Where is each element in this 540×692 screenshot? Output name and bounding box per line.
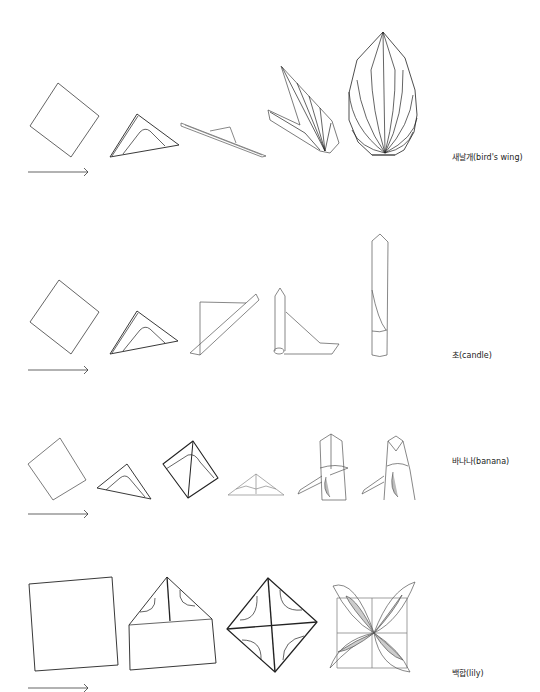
row-birds-wing: [28, 32, 417, 176]
step-banana-final: [362, 436, 415, 500]
label-birds-wing: 새날개(bird's wing): [452, 151, 523, 162]
label-lily: 백합(lily): [452, 667, 484, 678]
step-birds-wing-final: [349, 32, 417, 155]
step-rolled-band: [190, 294, 259, 355]
label-candle: 초(candle): [452, 349, 492, 360]
label-banana: 바나나(banana): [452, 455, 509, 466]
sequence-arrow-4: [28, 684, 88, 692]
step-kite: [163, 441, 218, 498]
step-lily-final: [330, 582, 415, 672]
step-triangle: [97, 464, 151, 499]
step-triangle: [110, 311, 178, 354]
step-folded-square: [129, 577, 216, 670]
step-square: [29, 577, 118, 671]
row-banana: [28, 434, 415, 518]
napkin-folding-diagram: [0, 0, 540, 692]
step-candle-final: [372, 234, 388, 357]
sequence-arrow-1: [28, 168, 88, 176]
step-square: [28, 438, 86, 500]
step-flat-fold: [181, 123, 266, 157]
step-flat-triangle: [228, 474, 284, 495]
step-square: [30, 83, 99, 157]
row-lily: [28, 577, 415, 692]
step-folded-cone: [298, 434, 348, 500]
sequence-arrow-2: [28, 366, 88, 374]
step-diamond: [227, 578, 317, 672]
step-pleated-fan: [268, 66, 339, 153]
sequence-arrow-3: [28, 510, 88, 518]
step-square: [30, 280, 99, 354]
step-triangle: [110, 114, 179, 157]
row-candle: [28, 234, 388, 374]
step-rolled-tube: [274, 288, 339, 354]
